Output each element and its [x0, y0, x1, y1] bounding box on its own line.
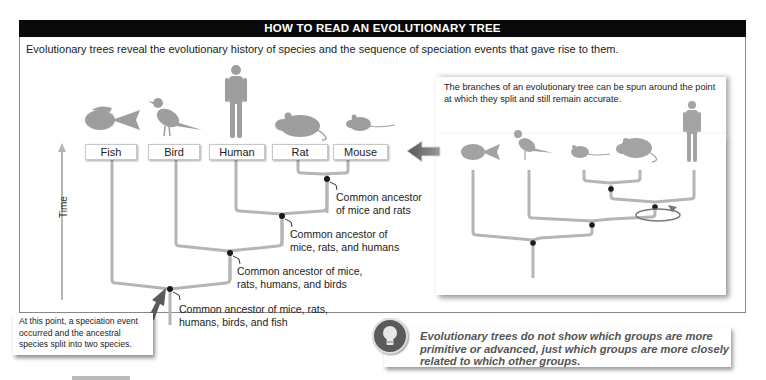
arrow-left-icon [407, 141, 440, 162]
taxon-label-rat: Rat [272, 144, 328, 160]
taxon-label-mouse: Mouse [333, 144, 388, 160]
rat-icon [616, 138, 657, 162]
node-label-mice-rats-humans-birds: Common ancestor of mice, rats, humans, a… [237, 265, 362, 291]
time-axis [58, 143, 66, 300]
mouse-icon [571, 145, 610, 158]
lightbulb-icon [372, 318, 408, 354]
time-axis-label: Time [58, 196, 69, 218]
bird-icon [148, 98, 202, 136]
human-icon [683, 101, 701, 162]
tip-line: related to which other groups. [420, 355, 730, 368]
footer-divider [72, 376, 130, 380]
node-label-line: Common ancestor of mice, rats, [179, 303, 328, 316]
rotated-tree-silhouettes [461, 101, 701, 162]
bird-icon [514, 130, 553, 160]
rat-icon [275, 113, 326, 141]
node-label-line: Common ancestor of [290, 228, 399, 241]
tip-line: Evolutionary trees do not show which gro… [420, 330, 730, 343]
tip-line: primitive or advanced, just which groups… [420, 343, 730, 356]
taxon-label-fish: Fish [85, 144, 137, 160]
callout-line: At this point, a speciation event [19, 316, 147, 328]
node-label-line: mice, rats, and humans [290, 241, 399, 254]
node-label-all: Common ancestor of mice, rats, humans, b… [179, 303, 328, 329]
node-label-line: rats, humans, and birds [237, 278, 362, 291]
human-icon [225, 65, 247, 138]
rotation-note: The branches of an evolutionary tree can… [444, 82, 724, 105]
fish-icon [85, 106, 140, 130]
callout-line: species split into two species. [19, 339, 147, 351]
speciation-callout: At this point, a speciation event occurr… [13, 313, 153, 355]
taxon-label-human: Human [209, 144, 265, 160]
callout-line: occurred and the ancestral [19, 328, 147, 340]
tip-text: Evolutionary trees do not show which gro… [420, 330, 730, 368]
rotation-note-line: The branches of an evolutionary tree can… [444, 82, 724, 94]
rotation-arrow-icon [636, 205, 680, 221]
taxon-label-bird: Bird [148, 144, 200, 160]
main-tree-silhouettes [85, 65, 395, 140]
rotated-tree-branches [473, 170, 694, 278]
node-label-line: Common ancestor [336, 191, 422, 204]
node-label-mice-rats-humans: Common ancestor of mice, rats, and human… [290, 228, 399, 254]
node-label-line: Common ancestor of mice, [237, 265, 362, 278]
rotation-note-line: at which they split and still remain acc… [444, 94, 724, 106]
node-label-mice-rats: Common ancestor of mice and rats [336, 191, 422, 217]
node-label-line: of mice and rats [336, 204, 422, 217]
node-label-line: humans, birds, and fish [179, 316, 328, 329]
fish-icon [461, 144, 500, 160]
mouse-icon [346, 115, 395, 132]
